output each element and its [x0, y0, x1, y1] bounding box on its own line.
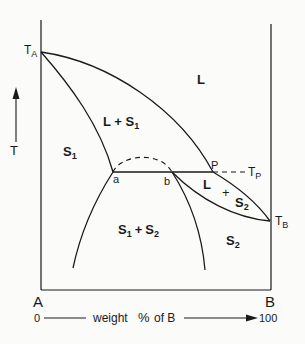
region-s2: S2: [226, 233, 240, 250]
x-axis-start: 0: [34, 312, 40, 324]
region-liquid-s1: L + S1: [103, 114, 139, 131]
region-liquid-s2-s: S2: [235, 195, 249, 212]
x-axis-label-percent: %: [138, 310, 150, 325]
x-axis-label-of-b: of B: [154, 311, 175, 325]
solvus-s1: [73, 172, 113, 268]
label-tb: TB: [275, 214, 288, 230]
metastable-dome-dashed: [113, 157, 172, 172]
x-axis-end: 100: [259, 312, 277, 324]
phase-diagram: T TA TB TP a b P L L + S1 S1 S1+S2 L + S…: [0, 0, 305, 344]
temperature-axis-label: T: [10, 143, 18, 158]
region-liquid: L: [197, 72, 205, 87]
point-p: P: [211, 159, 218, 171]
region-liquid-s2-plus: +: [222, 185, 230, 200]
label-tp: TP: [248, 165, 261, 181]
region-liquid-s2-l: L: [203, 177, 211, 192]
point-a: a: [113, 173, 120, 185]
region-s1-s2: S1+S2: [118, 222, 159, 239]
point-b: b: [164, 175, 170, 187]
arrow-up-icon: [13, 87, 20, 99]
x-axis-label-weight: weight: [92, 311, 128, 325]
region-s1: S1: [63, 144, 77, 161]
component-b: B: [265, 293, 275, 310]
label-ta: TA: [24, 43, 37, 59]
arrow-right-icon: [246, 315, 258, 322]
component-a: A: [33, 293, 43, 310]
